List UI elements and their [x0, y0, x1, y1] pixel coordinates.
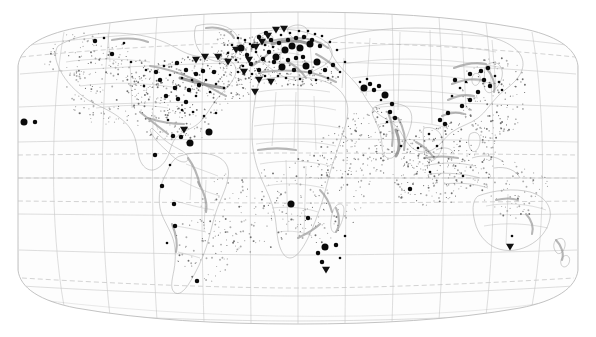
occurrence-point — [330, 82, 332, 84]
occurrence-point — [226, 264, 228, 266]
occurrence-point — [299, 74, 301, 76]
occurrence-point — [428, 176, 429, 177]
occurrence-point — [235, 233, 237, 235]
occurrence-point — [167, 114, 169, 116]
occurrence-point — [401, 189, 403, 191]
occurrence-point — [447, 160, 448, 161]
site-marker — [453, 78, 458, 83]
occurrence-point — [184, 108, 185, 109]
occurrence-point — [376, 145, 377, 146]
occurrence-point — [170, 112, 171, 113]
occurrence-point — [236, 82, 237, 83]
occurrence-point — [346, 137, 347, 138]
occurrence-point — [204, 228, 205, 229]
occurrence-point — [451, 152, 452, 153]
occurrence-point — [240, 37, 242, 39]
occurrence-point — [70, 73, 71, 74]
occurrence-point — [304, 209, 306, 211]
occurrence-point — [243, 44, 244, 45]
occurrence-point — [406, 151, 408, 153]
occurrence-point — [494, 206, 495, 207]
occurrence-point — [501, 206, 502, 207]
occurrence-point — [229, 198, 230, 199]
site-marker — [479, 69, 484, 74]
occurrence-point — [203, 224, 204, 225]
occurrence-point — [138, 93, 139, 94]
occurrence-point — [201, 220, 203, 222]
site-marker — [171, 134, 176, 139]
occurrence-point — [220, 78, 221, 79]
occurrence-point — [184, 59, 185, 60]
occurrence-point — [218, 91, 219, 92]
occurrence-point — [363, 118, 364, 119]
occurrence-point — [318, 222, 319, 223]
occurrence-point — [205, 117, 206, 118]
occurrence-point — [282, 58, 283, 59]
occurrence-point — [503, 130, 505, 132]
occurrence-point — [249, 70, 250, 71]
occurrence-point — [503, 189, 504, 190]
occurrence-point — [325, 81, 326, 82]
occurrence-point — [225, 218, 227, 220]
site-marker — [443, 122, 448, 127]
occurrence-point — [355, 159, 356, 160]
occurrence-point — [194, 65, 196, 67]
occurrence-point — [214, 109, 215, 110]
occurrence-point — [447, 166, 448, 167]
occurrence-point — [336, 216, 338, 218]
occurrence-point — [71, 98, 73, 100]
occurrence-point — [264, 83, 265, 84]
occurrence-point — [245, 48, 247, 50]
occurrence-point — [437, 128, 439, 130]
occurrence-point — [223, 68, 224, 69]
occurrence-point — [109, 108, 111, 110]
occurrence-point — [521, 171, 523, 173]
occurrence-point — [408, 192, 409, 193]
occurrence-point — [126, 79, 128, 81]
occurrence-point — [514, 123, 516, 125]
occurrence-point — [495, 152, 496, 153]
occurrence-point — [320, 146, 322, 148]
occurrence-point — [133, 105, 135, 107]
occurrence-point — [496, 198, 497, 199]
site-marker — [321, 35, 324, 38]
occurrence-point — [373, 158, 374, 159]
occurrence-point — [347, 173, 349, 175]
occurrence-point — [221, 77, 222, 78]
occurrence-point — [469, 154, 470, 155]
occurrence-point — [522, 180, 524, 182]
occurrence-point — [192, 104, 193, 105]
occurrence-point — [441, 147, 443, 149]
occurrence-point — [484, 128, 485, 129]
occurrence-point — [356, 171, 357, 172]
occurrence-point — [530, 195, 532, 197]
occurrence-point — [209, 220, 211, 222]
occurrence-point — [412, 167, 413, 168]
occurrence-point — [223, 34, 225, 36]
occurrence-point — [236, 92, 237, 93]
occurrence-point — [131, 90, 132, 91]
occurrence-point — [436, 181, 438, 183]
occurrence-point — [216, 110, 217, 111]
occurrence-point — [355, 143, 356, 144]
occurrence-point — [146, 131, 148, 133]
occurrence-point — [246, 52, 247, 53]
occurrence-point — [347, 157, 348, 158]
occurrence-point — [196, 109, 198, 111]
occurrence-point — [146, 88, 147, 89]
occurrence-point — [360, 207, 361, 208]
site-marker — [163, 65, 166, 68]
occurrence-point — [530, 177, 532, 179]
occurrence-point — [485, 137, 486, 138]
occurrence-point — [304, 83, 305, 84]
occurrence-point — [464, 160, 466, 162]
occurrence-point — [384, 152, 385, 153]
occurrence-point — [293, 84, 295, 86]
occurrence-point — [382, 125, 384, 127]
occurrence-point — [451, 158, 453, 160]
occurrence-point — [444, 130, 446, 132]
occurrence-point — [155, 101, 157, 103]
occurrence-point — [239, 58, 241, 60]
occurrence-point — [433, 138, 435, 140]
occurrence-point — [148, 99, 150, 101]
